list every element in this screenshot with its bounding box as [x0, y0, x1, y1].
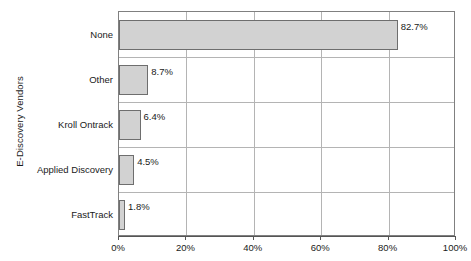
category-axis-labels: NoneOtherKroll OntrackApplied DiscoveryF…: [0, 0, 118, 261]
category-label: None: [0, 28, 118, 39]
y-gridline: [119, 57, 454, 58]
bar: [119, 20, 398, 50]
x-tick-mark: [388, 236, 389, 240]
category-label: Applied Discovery: [0, 163, 118, 174]
x-tick-mark: [185, 236, 186, 240]
x-tick-label: 60%: [311, 242, 330, 253]
bar-value-label: 82.7%: [398, 20, 428, 31]
x-tick-mark: [118, 236, 119, 240]
y-gridline: [119, 192, 454, 193]
x-tick-label: 100%: [443, 242, 467, 253]
category-label: Kroll Ontrack: [0, 118, 118, 129]
bar: [119, 65, 148, 95]
y-gridline: [119, 102, 454, 103]
bar-value-label: 1.8%: [125, 200, 150, 211]
y-gridline: [119, 147, 454, 148]
x-axis-line: [118, 236, 455, 237]
bar-chart: E-Discovery Vendors NoneOtherKroll Ontra…: [0, 0, 471, 261]
bar-value-label: 8.7%: [148, 65, 173, 76]
category-label: FastTrack: [0, 208, 118, 219]
plot-area: 82.7%8.7%6.4%4.5%1.8%: [118, 11, 455, 236]
bar: [119, 155, 134, 185]
x-tick-mark: [253, 236, 254, 240]
bar-value-label: 4.5%: [134, 155, 159, 166]
x-tick-mark: [455, 236, 456, 240]
x-tick-label: 20%: [176, 242, 195, 253]
bar-value-label: 6.4%: [141, 110, 166, 121]
x-tick-label: 80%: [378, 242, 397, 253]
x-tick-label: 40%: [243, 242, 262, 253]
bar: [119, 110, 141, 140]
category-label: Other: [0, 73, 118, 84]
x-tick-label: 0%: [111, 242, 125, 253]
x-tick-mark: [320, 236, 321, 240]
